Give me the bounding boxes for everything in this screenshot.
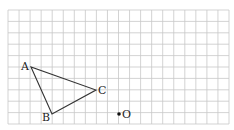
label-a: A <box>20 60 30 73</box>
geometry-figure: A B C O <box>0 0 234 130</box>
grid-canvas: A B C O <box>0 0 234 130</box>
square-grid <box>8 10 229 124</box>
label-o: O <box>122 108 131 121</box>
point-o-dot <box>117 112 121 116</box>
label-c: C <box>98 84 106 97</box>
label-b: B <box>42 111 50 124</box>
